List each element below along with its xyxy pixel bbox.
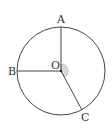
- label-c: C: [81, 111, 89, 124]
- circle-diagram: A B C O: [0, 0, 112, 129]
- label-a: A: [56, 13, 66, 26]
- radius-oc: [61, 71, 82, 110]
- label-b: B: [8, 65, 16, 78]
- center-point: [60, 70, 62, 72]
- label-o: O: [51, 59, 60, 72]
